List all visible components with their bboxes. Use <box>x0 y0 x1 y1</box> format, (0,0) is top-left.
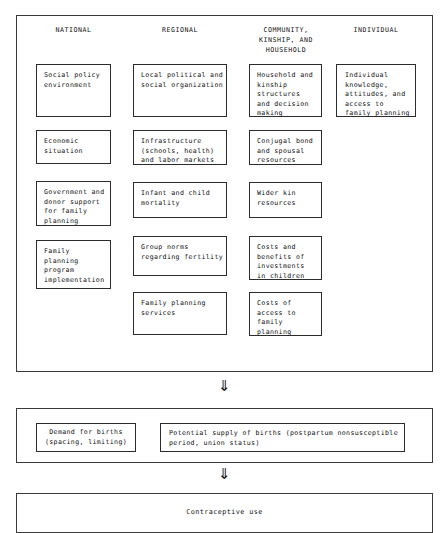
node-contraceptive-use: Contraceptive use <box>16 508 433 516</box>
node-economic-situation: Economic situation <box>36 130 111 164</box>
node-infant-child-mortality: Infant and child mortality <box>133 182 227 218</box>
node-family-planning-services: Family planning services <box>133 292 227 335</box>
node-local-political-social-organization: Local political and social organization <box>133 64 227 117</box>
node-wider-kin-resources: Wider kin resources <box>249 182 322 218</box>
node-infrastructure: Infrastructure (schools, health) and lab… <box>133 130 227 165</box>
node-costs-of-access-to-family-planning: Costs of access to family planning <box>249 292 322 336</box>
column-header-community-kinship-household: COMMUNITY, KINSHIP, AND HOUSEHOLD <box>249 25 323 55</box>
node-family-planning-program-implementation: Family planning program implementation <box>36 240 111 289</box>
node-conjugal-bond-spousal-resources: Conjugal bond and spousal resources <box>249 130 322 165</box>
down-arrow-icon: ⇓ <box>204 379 244 394</box>
column-header-individual: INDIVIDUAL <box>336 25 416 35</box>
node-household-kinship-structures: Household and kinship structures and dec… <box>249 64 322 117</box>
down-arrow-icon: ⇓ <box>204 467 244 482</box>
column-header-regional: REGIONAL <box>133 25 227 35</box>
node-costs-benefits-investments-children: Costs and benefits of investments in chi… <box>249 236 322 280</box>
node-group-norms-fertility: Group norms regarding fertility <box>133 236 227 276</box>
column-header-national: NATIONAL <box>36 25 111 35</box>
node-individual-knowledge-attitudes-access: Individual knowledge, attitudes, and acc… <box>336 64 416 117</box>
node-social-policy-environment: Social policy environment <box>36 64 111 117</box>
node-demand-for-births: Demand for births (spacing, limiting) <box>36 423 136 452</box>
node-potential-supply-of-births: Potential supply of births (postpartum n… <box>160 423 405 452</box>
node-government-donor-support: Government and donor support for family … <box>36 181 111 226</box>
